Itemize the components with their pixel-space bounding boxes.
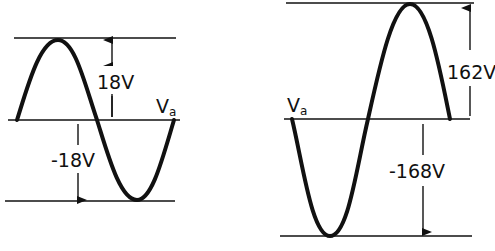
left-positive-peak-label: 18V [97,71,134,93]
left-waveform: 18V -18V Va [5,38,180,201]
waveform-diagram: 18V -18V Va 162V -168V Va [0,0,495,251]
left-negative-peak-label: -18V [51,149,95,171]
right-signal-label: Va [287,94,307,118]
left-signal-label: Va [156,95,176,119]
right-negative-peak-label: -168V [389,160,445,182]
right-positive-peak-label: 162V [447,61,495,83]
right-sine-curve [292,4,450,236]
right-waveform: 162V -168V Va [280,3,495,236]
